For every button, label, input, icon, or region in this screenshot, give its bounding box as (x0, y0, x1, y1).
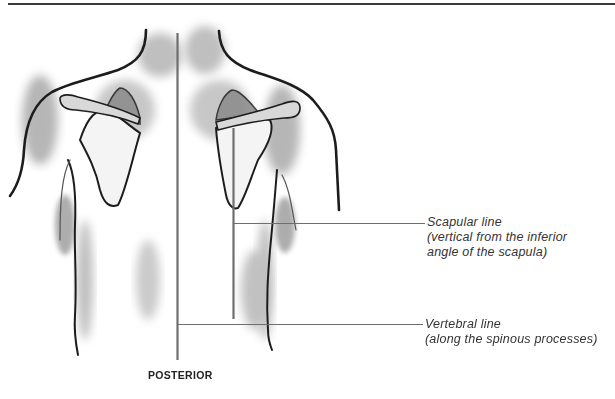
vertebral-line-label: Vertebral line (along the spinous proces… (425, 317, 598, 347)
vertebral-line-title: Vertebral line (425, 317, 598, 332)
vertebral-line-description: (along the spinous processes) (425, 332, 598, 347)
body-outline (10, 30, 339, 355)
scapular-line-description-cont: angle of the scapula) (427, 245, 567, 260)
view-caption: POSTERIOR (148, 369, 213, 381)
scapular-line-title: Scapular line (427, 215, 567, 230)
scapular-line-label: Scapular line (vertical from the inferio… (427, 215, 567, 260)
left-scapula (60, 88, 140, 206)
scapular-line-description: (vertical from the inferior (427, 230, 567, 245)
